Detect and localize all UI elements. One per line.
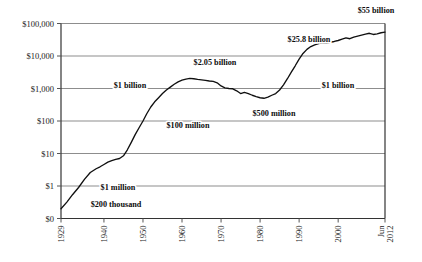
x-axis-tick-label: 1929 [56, 226, 66, 243]
x-axis-tick-label: 1940 [99, 226, 109, 243]
x-axis-tick-label: 1980 [255, 226, 265, 243]
annotation-label: $100 million [167, 121, 210, 130]
line-chart: $0$1$10$100$1,000$10,000$100,000 1929194… [0, 0, 422, 262]
y-axis-tick-label: $100 [37, 116, 54, 126]
annotation-label: $25.8 billion [288, 35, 331, 44]
y-axis-tick-label: $1 [46, 181, 55, 191]
chart-background [0, 0, 422, 262]
annotation-label: $55 billion [358, 6, 395, 15]
annotation-label: $1 billion [114, 81, 147, 90]
annotation-label: $1 billion [322, 81, 355, 90]
x-axis-tick-label: 2000 [333, 226, 343, 243]
chart-container: $0$1$10$100$1,000$10,000$100,000 1929194… [0, 0, 422, 262]
y-axis-tick-label: $100,000 [22, 19, 54, 29]
x-axis-tick-label-second-line: 2012 [385, 226, 395, 243]
annotation-label: $500 million [253, 109, 296, 118]
y-axis-tick-label: $10,000 [26, 51, 54, 61]
annotation-label: $200 thousand [91, 200, 142, 209]
annotation-label: $1 million [101, 183, 136, 192]
x-axis-tick-label: 1960 [177, 226, 187, 243]
x-axis-tick-label: 1950 [138, 226, 148, 243]
y-axis-tick-label: $1,000 [31, 84, 54, 94]
y-axis-tick-label: $10 [41, 149, 54, 159]
x-axis-tick-label: 1990 [294, 226, 304, 243]
x-axis-tick-label: 1970 [216, 226, 226, 243]
y-axis-tick-label: $0 [46, 214, 55, 224]
annotation-label: $2.05 billion [194, 58, 237, 67]
